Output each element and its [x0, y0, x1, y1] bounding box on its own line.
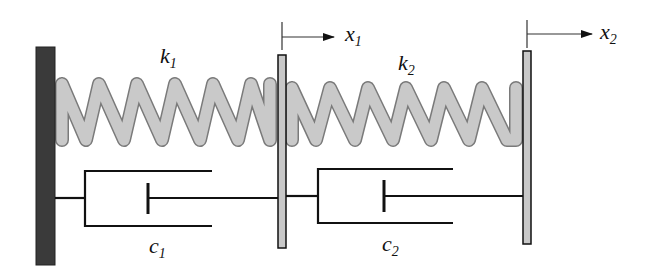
mass-plate-2 — [523, 51, 531, 244]
damper-c2 — [286, 169, 523, 223]
displacement-arrow-x2 — [527, 20, 592, 48]
label-x2: x2 — [599, 19, 617, 47]
spring-k2 — [292, 88, 516, 140]
spring-damper-diagram: k1 k2 c1 c2 x1 x2 — [0, 0, 650, 277]
damper-c1 — [55, 171, 278, 226]
label-c1: c1 — [149, 233, 166, 261]
fixed-wall — [36, 47, 55, 265]
mass-plate-1 — [278, 55, 286, 248]
displacement-arrow-x1 — [282, 22, 334, 50]
spring-k1 — [62, 84, 270, 140]
label-k1: k1 — [160, 43, 177, 71]
label-k2: k2 — [398, 50, 415, 78]
label-c2: c2 — [382, 231, 399, 259]
label-x1: x1 — [344, 21, 362, 49]
